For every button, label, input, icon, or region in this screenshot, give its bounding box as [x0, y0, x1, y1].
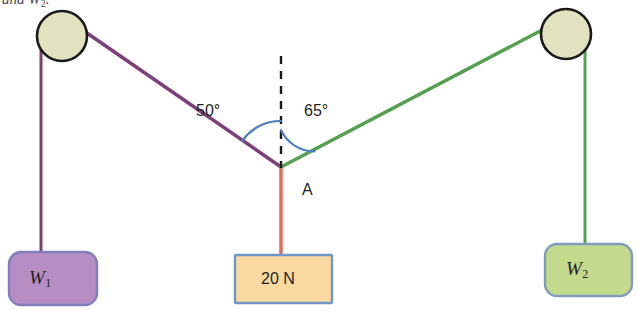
angle-arc-right	[281, 130, 315, 151]
pulley-right	[541, 9, 591, 59]
caption-fragment-clip: and W2.	[0, 0, 637, 10]
block-weight-two	[545, 244, 632, 296]
junction-point-label: A	[302, 182, 313, 198]
angle-label-right: 65°	[304, 103, 328, 119]
rope-left-diagonal-segment	[84, 31, 281, 167]
angle-label-left: 50°	[196, 103, 220, 119]
caption-fragment: and W2.	[2, 0, 50, 9]
angle-arc-left	[243, 121, 281, 141]
rope-right-diagonal-segment	[281, 29, 544, 167]
block-label-weight-two: W2	[566, 259, 588, 280]
block-label-weight-one: W1	[29, 268, 51, 289]
block-label-applied-force: 20 N	[261, 271, 295, 287]
pulley-left	[37, 11, 87, 61]
block-weight-one	[9, 252, 97, 305]
pulley-force-diagram: and W2. 50° 65° A W1 20 N W2	[0, 0, 637, 310]
diagram-canvas	[0, 0, 637, 310]
